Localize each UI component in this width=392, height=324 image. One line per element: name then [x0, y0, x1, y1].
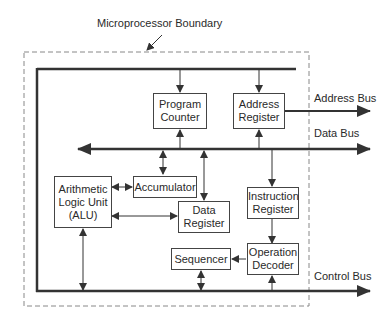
instruction-register-block: Instruction Register — [247, 187, 299, 219]
data-bus-label: Data Bus — [314, 127, 359, 139]
sequencer-block: Sequencer — [171, 248, 231, 270]
address-bus-label: Address Bus — [314, 92, 376, 104]
control-bus-label: Control Bus — [314, 270, 371, 282]
alu-block: Arithmetic Logic Unit (ALU) — [54, 176, 112, 228]
accumulator-block: Accumulator — [133, 176, 197, 198]
boundary-title: Microprocessor Boundary — [97, 17, 222, 29]
program-counter-block: Program Counter — [153, 93, 207, 129]
boundary-pointer-arrow — [147, 35, 162, 50]
data-register-block: Data Register — [178, 201, 230, 233]
operation-decoder-block: Operation Decoder — [247, 243, 299, 275]
address-register-block: Address Register — [233, 93, 285, 129]
